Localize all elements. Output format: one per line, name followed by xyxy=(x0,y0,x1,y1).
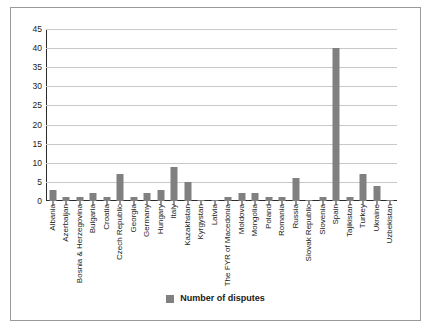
x-label-slot: Mongolia xyxy=(249,204,263,286)
bar-slot xyxy=(222,29,236,201)
x-axis-label: Bosnia & Herzegovina xyxy=(76,204,84,283)
bar[interactable] xyxy=(292,178,299,201)
x-axis-label: Czech Republic xyxy=(116,204,124,260)
bar[interactable] xyxy=(157,190,164,201)
x-axis-label: Albania xyxy=(49,204,57,231)
bar[interactable] xyxy=(373,186,380,201)
x-label-slot: Turkey xyxy=(357,204,371,286)
bar-slot xyxy=(46,29,60,201)
bar-slot xyxy=(384,29,398,201)
bar-slot xyxy=(316,29,330,201)
x-axis-label: Italy xyxy=(170,204,178,219)
bar-slot xyxy=(370,29,384,201)
x-axis-label: Tajikistan xyxy=(346,204,354,237)
y-tick-label-15: 15 xyxy=(33,139,42,148)
x-label-slot: Slovenia xyxy=(316,204,330,286)
y-tick-label-40: 40 xyxy=(33,44,42,53)
x-axis-label: Croatia xyxy=(103,204,111,230)
x-axis-label: Russia xyxy=(292,204,300,228)
x-label-slot: Bulgaria xyxy=(87,204,101,286)
bar-slot xyxy=(303,29,317,201)
bar[interactable] xyxy=(144,193,151,201)
bar-slot xyxy=(249,29,263,201)
x-axis-label: Georgia xyxy=(130,204,138,232)
bar[interactable] xyxy=(184,182,191,201)
bar-slot xyxy=(114,29,128,201)
bar-slot xyxy=(73,29,87,201)
x-label-slot: Latvia xyxy=(208,204,222,286)
x-axis-label: Kyrgystan xyxy=(197,204,205,240)
x-label-slot: Kyrgystan xyxy=(195,204,209,286)
x-label-slot: Slovak Republic xyxy=(303,204,317,286)
bar-slot xyxy=(195,29,209,201)
x-axis-label: Moldova xyxy=(238,204,246,234)
bar[interactable] xyxy=(171,167,178,201)
bar-slot xyxy=(343,29,357,201)
x-label-slot: Germany xyxy=(141,204,155,286)
x-label-slot: Kazakhstan xyxy=(181,204,195,286)
bar[interactable] xyxy=(238,193,245,201)
x-label-slot: Italy xyxy=(168,204,182,286)
y-tick-label-30: 30 xyxy=(33,82,42,91)
x-axis-label: Romania xyxy=(278,204,286,236)
legend-swatch-number-of-disputes xyxy=(166,295,174,303)
bar-slot xyxy=(208,29,222,201)
x-axis-label: Mongolia xyxy=(251,204,259,236)
x-axis-label: The FYR of Macedonia xyxy=(224,204,232,286)
x-label-slot: The FYR of Macedonia xyxy=(222,204,236,286)
x-label-slot: Russia xyxy=(289,204,303,286)
x-axis-label: Poland xyxy=(265,204,273,229)
bar-slot xyxy=(141,29,155,201)
x-label-slot: Georgia xyxy=(127,204,141,286)
bar-slot xyxy=(154,29,168,201)
y-tick-label-5: 5 xyxy=(37,178,42,187)
bar-slot xyxy=(127,29,141,201)
bar[interactable] xyxy=(117,174,124,201)
y-tick-label-45: 45 xyxy=(33,25,42,34)
x-label-slot: Moldova xyxy=(235,204,249,286)
chart-frame: 051015202530354045 AlbaniaAzerbaijanBosn… xyxy=(10,7,421,321)
x-label-slot: Ukraine xyxy=(370,204,384,286)
x-label-slot: Albania xyxy=(46,204,60,286)
bar-slot xyxy=(87,29,101,201)
bar-series xyxy=(46,29,397,201)
bar-slot xyxy=(100,29,114,201)
bar[interactable] xyxy=(252,193,259,201)
x-axis-label: Slovak Republic xyxy=(305,204,313,261)
bar-slot xyxy=(330,29,344,201)
x-axis-labels: AlbaniaAzerbaijanBosnia & HerzegovinaBul… xyxy=(46,204,397,286)
x-label-slot: Azerbaijan xyxy=(60,204,74,286)
bar-slot xyxy=(235,29,249,201)
x-axis-label: Uzbekistan xyxy=(386,204,394,244)
x-label-slot: Bosnia & Herzegovina xyxy=(73,204,87,286)
x-label-slot: Spain xyxy=(330,204,344,286)
x-label-slot: Czech Republic xyxy=(114,204,128,286)
bar-slot xyxy=(60,29,74,201)
chart-legend: Number of disputes xyxy=(11,294,420,303)
bar-slot xyxy=(262,29,276,201)
x-label-slot: Uzbekistan xyxy=(384,204,398,286)
x-axis-label: Latvia xyxy=(211,204,219,225)
x-label-slot: Hungary xyxy=(154,204,168,286)
bar[interactable] xyxy=(333,48,340,201)
x-axis-label: Kazakhstan xyxy=(184,204,192,246)
bar-slot xyxy=(181,29,195,201)
y-tick-label-25: 25 xyxy=(33,101,42,110)
y-tick-label-20: 20 xyxy=(33,120,42,129)
x-label-slot: Romania xyxy=(276,204,290,286)
x-axis-label: Spain xyxy=(332,204,340,224)
bar-slot xyxy=(357,29,371,201)
bar-slot xyxy=(168,29,182,201)
y-tick-label-35: 35 xyxy=(33,63,42,72)
y-tick-label-0: 0 xyxy=(37,197,42,206)
bar[interactable] xyxy=(49,190,56,201)
x-axis-label: Ukraine xyxy=(373,204,381,232)
bar[interactable] xyxy=(360,174,367,201)
legend-label-number-of-disputes: Number of disputes xyxy=(180,294,265,303)
bar-slot xyxy=(276,29,290,201)
bar-slot xyxy=(289,29,303,201)
x-axis-label: Hungary xyxy=(157,204,165,234)
x-axis-label: Slovenia xyxy=(319,204,327,235)
bar[interactable] xyxy=(90,193,97,201)
x-axis-label: Turkey xyxy=(359,204,367,228)
